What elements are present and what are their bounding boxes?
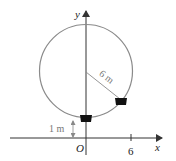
x-axis-label: x [154,141,160,153]
height-label: 1 m [49,123,65,134]
bottom-cart-icon [80,115,92,122]
ferris-wheel-diagram: y x O 6 6 m 1 m [0,0,176,161]
y-axis-label: y [74,8,80,20]
x-tick-label-6: 6 [128,145,134,157]
origin-label: O [76,142,84,154]
right-cart-icon [115,98,127,105]
